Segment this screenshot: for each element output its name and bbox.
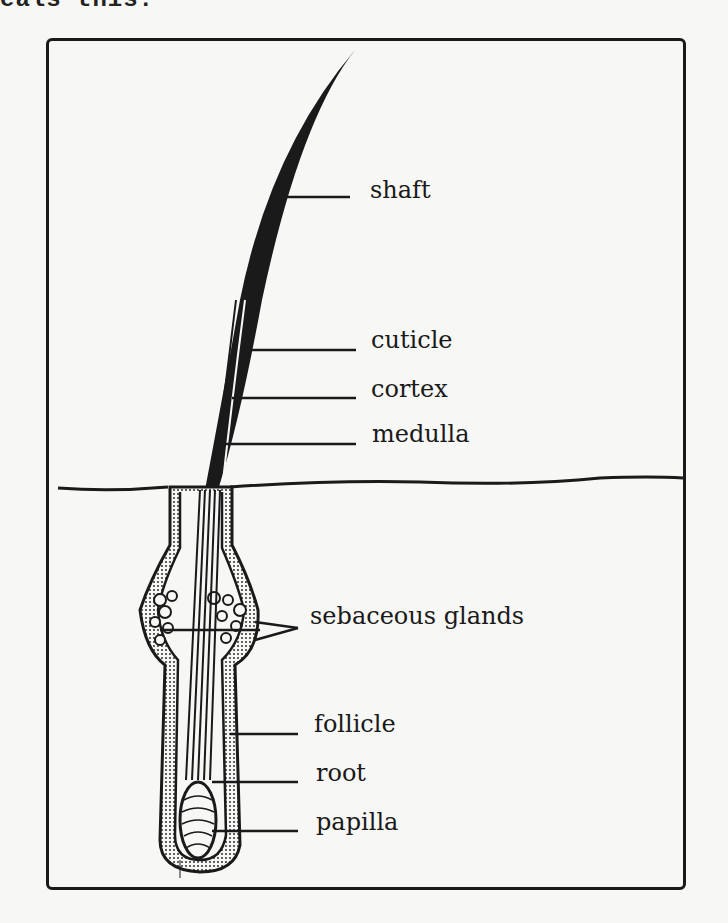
- label-papilla: papilla: [316, 810, 398, 834]
- label-root: root: [316, 761, 366, 785]
- label-shaft: shaft: [370, 178, 431, 202]
- label-follicle: follicle: [314, 712, 396, 736]
- label-sebaceous-glands: sebaceous glands: [310, 604, 524, 628]
- label-medulla: medulla: [372, 422, 469, 446]
- label-cuticle: cuticle: [371, 328, 453, 352]
- label-cortex: cortex: [371, 377, 448, 401]
- skin-surface-line: [58, 477, 683, 490]
- hair-shaft: [205, 50, 355, 490]
